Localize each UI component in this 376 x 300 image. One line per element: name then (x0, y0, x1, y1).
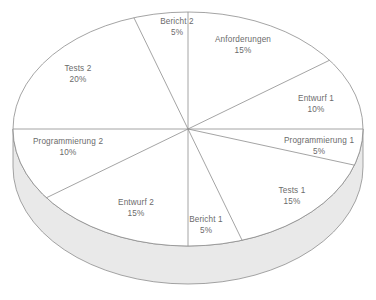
pie-chart: Anforderungen 15% Entwurf 1 10% Programm… (0, 0, 376, 300)
pie-chart-graphic (0, 0, 376, 300)
